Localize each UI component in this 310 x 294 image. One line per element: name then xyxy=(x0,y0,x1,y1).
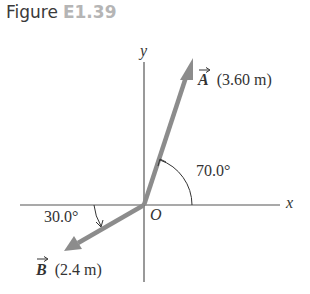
vector-a-label: A (3.60 m) xyxy=(197,71,272,89)
y-axis-label: y xyxy=(138,42,148,60)
vector-b-name: B xyxy=(35,261,47,278)
vector-a-arrowhead xyxy=(180,58,193,80)
angle-arc-70 xyxy=(160,160,192,205)
vector-a-magnitude: (3.60 m) xyxy=(217,71,272,89)
angle-a-label: 70.0° xyxy=(196,162,230,179)
x-axis-label: x xyxy=(285,194,293,211)
origin-label: O xyxy=(150,206,162,223)
vector-b-label: B (2.4 m) xyxy=(35,261,102,279)
vector-a xyxy=(144,58,193,205)
angle-b-label: 30.0° xyxy=(44,208,78,225)
vector-a-name: A xyxy=(197,71,209,88)
vector-b-magnitude: (2.4 m) xyxy=(55,261,102,279)
vector-diagram: y x O A (3.60 m) 70.0° B (2.4 m) 30.0° xyxy=(0,0,310,294)
